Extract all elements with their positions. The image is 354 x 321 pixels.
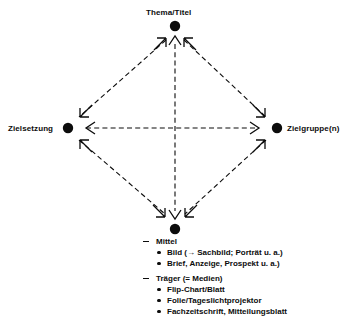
dash-marker-icon: [143, 241, 149, 242]
legend-item-list-traeger: Flip-Chart/Blatt Folie/Tageslichtprojekt…: [143, 284, 348, 317]
arrowhead-to-zielsetzung-from-top: [80, 105, 92, 117]
arrowhead-to-zielgruppe-from-top: [253, 105, 265, 117]
node-zielgruppe[interactable]: [272, 123, 282, 133]
bullet-dot-icon: [157, 310, 161, 314]
legend-item-text: Flip-Chart/Blatt: [167, 285, 225, 294]
legend-item-text: Folie/Tageslichtprojektor: [167, 296, 262, 305]
dash-marker-icon: [143, 278, 149, 279]
arrowhead-to-mittel-from-top: [169, 210, 181, 219]
legend-heading-text: Mittel: [156, 237, 177, 246]
arrowhead-to-thema-from-right: [184, 38, 196, 50]
legend-heading-traeger: Träger (= Medien): [143, 273, 348, 284]
legend-item-list-mittel: Bild (→ Sachbild; Porträt u. a.) Brief, …: [143, 247, 348, 269]
legend-group-mittel: Mittel Bild (→ Sachbild; Porträt u. a.) …: [143, 236, 348, 269]
arrowhead-to-zielgruppe-from-bottom: [253, 140, 265, 152]
bullet-dot-icon: [157, 251, 161, 255]
node-thema[interactable]: [170, 21, 180, 31]
arrowhead-to-mittel-from-left: [153, 205, 165, 217]
arrowhead-to-thema-from-left: [154, 38, 166, 50]
legend-heading-text: Träger (= Medien): [156, 274, 222, 283]
node-label-zielsetzung: Zielsetzung: [8, 124, 53, 133]
legend-list-item: Flip-Chart/Blatt: [143, 284, 348, 295]
diagram-page: Thema/Titel Zielsetzung Zielgruppe(n) Mi…: [0, 0, 354, 321]
legend-group-traeger: Träger (= Medien) Flip-Chart/Blatt Folie…: [143, 273, 348, 317]
legend-list-item: Fachzeitschrift, Mitteilungsblatt: [143, 306, 348, 317]
node-label-zielgruppe: Zielgruppe(n): [287, 124, 339, 133]
legend-list-item: Folie/Tageslichtprojektor: [143, 295, 348, 306]
arrowhead-to-mittel-from-right: [185, 205, 197, 217]
bullet-dot-icon: [157, 288, 161, 292]
legend-list-item: Bild (→ Sachbild; Porträt u. a.): [143, 247, 348, 258]
node-mittel[interactable]: [170, 224, 180, 234]
node-label-thema: Thema/Titel: [146, 8, 191, 17]
legend-item-text: Bild (→ Sachbild; Porträt u. a.): [167, 248, 283, 257]
legend: Mittel Bild (→ Sachbild; Porträt u. a.) …: [143, 236, 348, 317]
legend-item-text: Brief, Anzeige, Prospekt u. a.): [167, 259, 280, 268]
legend-item-text: Fachzeitschrift, Mitteilungsblatt: [167, 307, 287, 316]
bullet-dot-icon: [157, 262, 161, 266]
arrowhead-to-thema-from-bottom: [169, 36, 181, 45]
legend-heading-mittel: Mittel: [143, 236, 348, 247]
legend-list-item: Brief, Anzeige, Prospekt u. a.): [143, 258, 348, 269]
arrowhead-to-zielsetzung-from-bottom: [80, 140, 92, 152]
node-zielsetzung[interactable]: [63, 123, 73, 133]
bullet-dot-icon: [157, 299, 161, 303]
